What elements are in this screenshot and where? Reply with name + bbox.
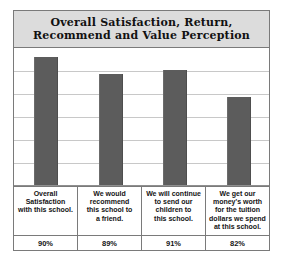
category-label: We would recommend this school to a frie… bbox=[87, 190, 133, 223]
data-table: Overall Satisfaction with this school. 9… bbox=[14, 186, 269, 251]
chart-title-banner: Overall Satisfaction, Return, Recommend … bbox=[14, 11, 269, 48]
bar-series-0 bbox=[34, 57, 58, 185]
category-label-cell: Overall Satisfaction with this school. bbox=[14, 187, 77, 236]
value-cell: 89% bbox=[78, 236, 141, 251]
category-label-cell: We get our money's worth for the tuition… bbox=[206, 187, 269, 236]
category-label-cell: We would recommend this school to a frie… bbox=[78, 187, 141, 236]
table-column-3: We get our money's worth for the tuition… bbox=[206, 187, 269, 251]
table-column-1: We would recommend this school to a frie… bbox=[78, 187, 142, 251]
value-label: 90% bbox=[38, 239, 53, 248]
chart-figure: Overall Satisfaction, Return, Recommend … bbox=[13, 10, 270, 251]
value-label: 91% bbox=[166, 239, 181, 248]
value-cell: 91% bbox=[142, 236, 205, 251]
page-title: Overall Satisfaction, Return, Recommend … bbox=[29, 16, 254, 42]
bar-series-2 bbox=[163, 70, 187, 185]
category-label-cell: We will continue to send our children to… bbox=[142, 187, 205, 236]
bar-series-1 bbox=[99, 74, 123, 185]
category-label: We will continue to send our children to… bbox=[146, 190, 201, 223]
plot-area bbox=[14, 48, 269, 186]
value-cell: 82% bbox=[206, 236, 269, 251]
category-label: We get our money's worth for the tuition… bbox=[209, 190, 266, 231]
category-label: Overall Satisfaction with this school. bbox=[18, 190, 73, 215]
bar-series-3 bbox=[227, 97, 251, 185]
table-column-2: We will continue to send our children to… bbox=[142, 187, 206, 251]
value-label: 89% bbox=[102, 239, 117, 248]
table-column-0: Overall Satisfaction with this school. 9… bbox=[14, 187, 78, 251]
value-cell: 90% bbox=[14, 236, 77, 251]
value-label: 82% bbox=[230, 239, 245, 248]
